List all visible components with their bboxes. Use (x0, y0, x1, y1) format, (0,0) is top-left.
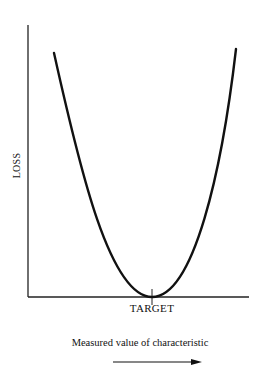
loss-curve (54, 49, 236, 297)
target-label: TARGET (112, 302, 192, 314)
x-axis-label: Measured value of characteristic (40, 337, 240, 348)
arrow-right-icon (191, 359, 202, 365)
chart-canvas (0, 0, 261, 374)
y-axis-label: LOSS (11, 146, 22, 186)
